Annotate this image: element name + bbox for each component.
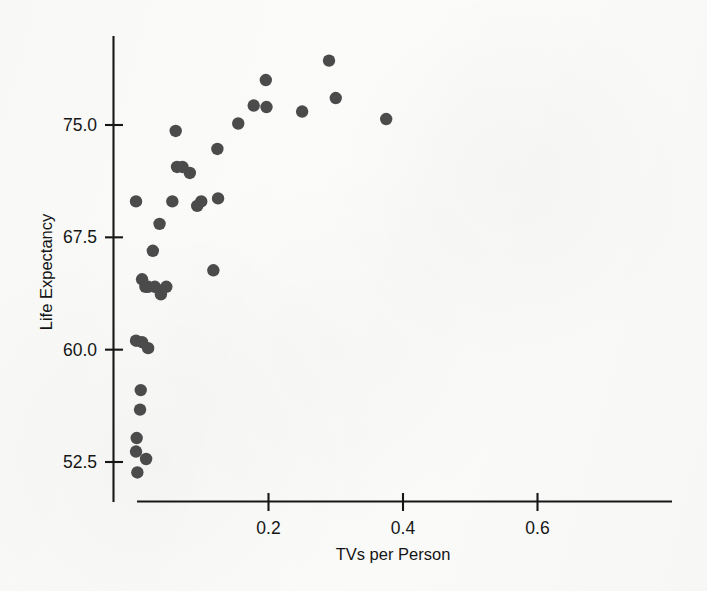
x-tick-label: 0.2 bbox=[256, 518, 280, 538]
data-point bbox=[232, 117, 244, 129]
data-point bbox=[260, 74, 272, 86]
data-point bbox=[212, 192, 224, 204]
data-point bbox=[330, 92, 342, 104]
data-point bbox=[296, 105, 308, 117]
data-point bbox=[131, 466, 143, 478]
y-tick-label: 67.5 bbox=[63, 227, 97, 247]
data-point bbox=[176, 161, 188, 173]
y-axis-title: Life Expectancy bbox=[37, 213, 55, 330]
data-point bbox=[260, 101, 272, 113]
axes-group bbox=[114, 36, 673, 502]
data-point bbox=[160, 281, 172, 293]
data-points-group bbox=[130, 54, 393, 478]
scatter-plot-figure: 52.560.067.575.0 0.20.40.6 TVs per Perso… bbox=[0, 0, 707, 591]
x-tick-label: 0.6 bbox=[525, 518, 549, 538]
data-point bbox=[169, 125, 181, 137]
data-point bbox=[140, 453, 152, 465]
x-axis-ticks: 0.20.40.6 bbox=[256, 493, 549, 538]
data-point bbox=[147, 245, 159, 257]
data-point bbox=[248, 99, 260, 111]
data-point bbox=[142, 342, 154, 354]
data-point bbox=[195, 195, 207, 207]
data-point bbox=[380, 113, 392, 125]
data-point bbox=[211, 143, 223, 155]
data-point bbox=[207, 264, 219, 276]
data-point bbox=[153, 218, 165, 230]
data-point bbox=[130, 195, 142, 207]
scatter-plot-canvas: 52.560.067.575.0 0.20.40.6 TVs per Perso… bbox=[0, 0, 707, 591]
y-tick-label: 60.0 bbox=[63, 340, 97, 360]
y-tick-label: 52.5 bbox=[63, 452, 97, 472]
data-point bbox=[166, 195, 178, 207]
x-tick-label: 0.4 bbox=[391, 518, 416, 538]
x-axis-title: TVs per Person bbox=[336, 545, 451, 563]
data-point bbox=[134, 403, 146, 415]
y-tick-label: 75.0 bbox=[63, 115, 97, 135]
data-point bbox=[135, 384, 147, 396]
data-point bbox=[323, 54, 335, 66]
data-point bbox=[130, 432, 142, 444]
data-point bbox=[130, 445, 142, 457]
